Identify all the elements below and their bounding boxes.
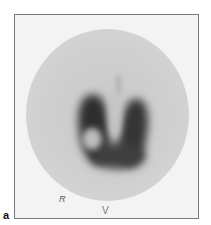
cold-nodule xyxy=(82,128,102,150)
trachea-gap xyxy=(109,93,121,137)
panel-label: a xyxy=(3,209,9,221)
notch-marker: V xyxy=(102,205,109,216)
scintigram-frame: R V xyxy=(14,14,199,219)
side-marker: R xyxy=(59,194,66,204)
pyramidal-lobe-uptake xyxy=(116,75,121,95)
thyroid-isthmus xyxy=(93,143,145,169)
